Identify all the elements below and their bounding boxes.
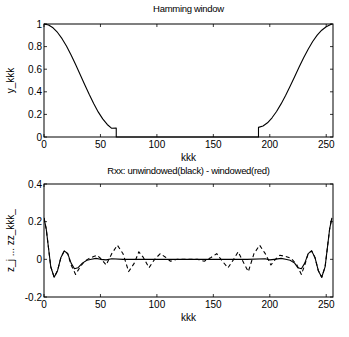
plot-area-frame: [44, 184, 333, 297]
y-tick-label: 0.8: [28, 41, 42, 52]
x-axis-label: kkk: [181, 312, 197, 323]
x-tick-label: 50: [95, 299, 107, 310]
figure: Hamming window05010015020025000.20.40.60…: [0, 0, 349, 337]
x-tick-label: 250: [318, 139, 335, 150]
x-tick-label: 0: [41, 139, 47, 150]
y-tick-label: 0.6: [28, 64, 42, 75]
y-tick-label: 0: [36, 132, 42, 143]
x-tick-label: 250: [318, 299, 335, 310]
x-tick-label: 100: [149, 299, 166, 310]
x-axis-label: kkk: [181, 152, 197, 163]
series-line-unwindowed: [44, 218, 332, 277]
y-axis-label: y_kkk: [5, 67, 16, 94]
x-tick-label: 100: [149, 139, 166, 150]
y-tick-label: -0.2: [25, 292, 43, 303]
x-tick-label: 150: [205, 139, 222, 150]
series-line-windowed: [44, 218, 332, 277]
y-tick-label: 0.4: [28, 86, 42, 97]
x-tick-label: 0: [41, 299, 47, 310]
chart-title: Rxx: unwindowed(black) - windowed(red): [107, 165, 269, 176]
series-line-y_kkk: [44, 24, 332, 137]
x-tick-label: 150: [205, 299, 222, 310]
y-axis-label: z_j ... zz_kkk_: [5, 209, 16, 272]
y-tick-label: 0: [36, 254, 42, 265]
y-tick-label: 0.2: [28, 109, 42, 120]
x-tick-label: 200: [261, 139, 278, 150]
y-tick-label: 0.4: [28, 179, 42, 190]
autocorrelation-panel: Rxx: unwindowed(black) - windowed(red)05…: [5, 165, 335, 323]
y-tick-label: 0.2: [28, 216, 42, 227]
y-tick-label: 1: [36, 19, 42, 30]
x-tick-label: 200: [261, 299, 278, 310]
hamming-window-panel: Hamming window05010015020025000.20.40.60…: [5, 3, 335, 163]
chart-title: Hamming window: [153, 3, 224, 14]
x-tick-label: 50: [95, 139, 107, 150]
plot-area-frame: [44, 24, 333, 137]
